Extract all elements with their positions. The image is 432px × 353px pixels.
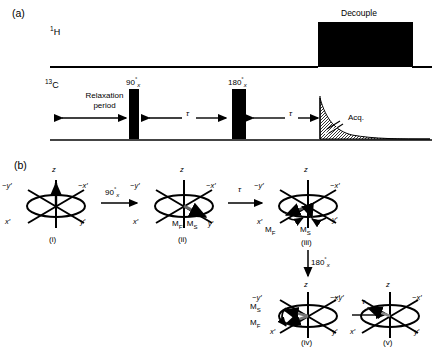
ms-label-iv: MS	[250, 303, 261, 313]
mf-letter-iii: M	[265, 225, 272, 234]
magnetization-label-ii: MF, MS	[172, 220, 197, 230]
axis-label-x-iv: x′	[270, 328, 275, 336]
diagram-caption-ii: (ii)	[178, 236, 187, 244]
mf-label-iv: MF	[250, 319, 260, 329]
axis-label-x-i: x′	[5, 218, 10, 226]
ms-sub-ii: S	[193, 224, 197, 230]
axis-label-x-ii: x′	[133, 218, 138, 226]
ms-letter-iv: M	[250, 302, 257, 311]
transition-180-angle: 180	[311, 258, 324, 267]
axis-label-y-v: y′	[414, 328, 419, 336]
transition-label-90: 90°x	[105, 186, 119, 198]
axis-label-neg-y-iii: −y′	[254, 182, 264, 190]
axis-label-x-v: x′	[350, 328, 355, 336]
transition-label-180: 180°x	[311, 256, 330, 268]
diagram-caption-iii: (iii)	[301, 239, 312, 247]
axis-label-neg-x-ii: −x′	[206, 182, 216, 190]
transition-180-phase: x	[327, 262, 330, 268]
mf-sub-iv: F	[257, 323, 261, 329]
axis-label-y-iv: y′	[332, 328, 337, 336]
axis-label-z-v: z	[386, 281, 390, 289]
diagram-caption-iv: (iv)	[301, 339, 312, 347]
vector-diagram-i	[14, 168, 98, 238]
axis-label-z-iii: z	[304, 166, 308, 174]
diagram-caption-v: (v)	[383, 339, 392, 347]
axis-label-z-ii: z	[180, 166, 184, 174]
axis-label-neg-y-i: −y′	[2, 182, 12, 190]
transition-arrow-ii-to-iii	[226, 195, 266, 209]
ms-label-iii: MS	[300, 226, 311, 236]
axis-label-neg-y-ii: −y′	[130, 182, 140, 190]
transition-90-phase: x	[116, 192, 119, 198]
transition-90-angle: 90	[105, 188, 114, 197]
axis-label-z-iv: z	[304, 281, 308, 289]
axis-label-neg-x-iii: −x′	[330, 182, 340, 190]
axis-label-neg-y-iv: −y′	[252, 294, 262, 302]
fid-acquisition-decay	[320, 96, 430, 139]
axis-label-y-i: y′	[80, 218, 85, 226]
m-separator-ii: , M	[182, 219, 193, 228]
diagram-caption-i: (i)	[49, 236, 56, 244]
axis-label-y-ii: y′	[208, 220, 213, 228]
nmr-pulse-sequence-figure: (a) 1H Decouple 13C 90°x 180°x Relaxatio…	[0, 0, 432, 353]
axis-label-x-iii: x′	[257, 218, 262, 226]
axis-label-z-i: z	[52, 166, 56, 174]
transition-label-tau-1: τ	[238, 186, 241, 194]
mf-sub-iii: F	[272, 230, 276, 236]
axis-label-neg-x-i: −x′	[78, 182, 88, 190]
ms-sub-iv: S	[257, 307, 261, 313]
axis-label-neg-y-v: −y′	[334, 294, 344, 302]
mf-letter-ii: M	[172, 219, 179, 228]
mf-label-iii: MF	[265, 226, 275, 236]
ms-sub-iii: S	[307, 230, 311, 236]
axis-label-y-iii: y′	[332, 216, 337, 224]
ms-letter-iii: M	[300, 225, 307, 234]
mf-letter-iv: M	[250, 318, 257, 327]
axis-label-neg-x-v: −x′	[412, 294, 422, 302]
